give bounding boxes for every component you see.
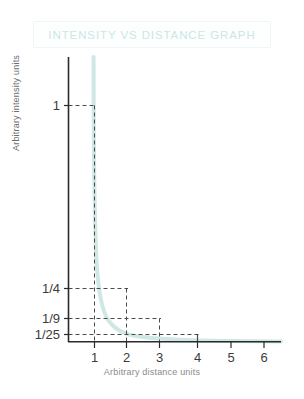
y-tick-label-twentyfifth: 1/25 <box>18 327 60 342</box>
y-tick-label-ninth: 1/9 <box>22 311 60 326</box>
x-tick-label-2: 2 <box>123 350 130 365</box>
y-tick-label-1: 1 <box>22 98 60 113</box>
x-tick-label-1: 1 <box>91 350 98 365</box>
x-axis-title: Arbitrary distance units <box>0 367 304 377</box>
intensity-distance-chart: INTENSITY VS DISTANCE GRAPH <box>0 0 304 399</box>
y-tick-label-quarter: 1/4 <box>22 281 60 296</box>
x-tick-label-3: 3 <box>156 350 163 365</box>
intensity-curve-path <box>94 57 281 341</box>
x-tick-label-4: 4 <box>194 350 201 365</box>
x-tick-label-5: 5 <box>227 350 234 365</box>
x-tick-label-6: 6 <box>260 350 267 365</box>
y-axis-title: Arbitrary intensity units <box>11 33 21 151</box>
